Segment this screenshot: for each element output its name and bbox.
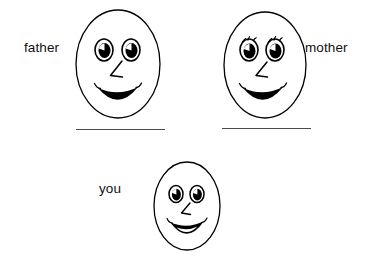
smiley-face-icon: [152, 160, 222, 252]
answer-line-father: [76, 129, 165, 130]
left-eye: [169, 185, 183, 202]
left-eye: [95, 39, 113, 61]
label-father: father: [24, 40, 59, 55]
mother-face: [222, 10, 308, 120]
face-outline: [76, 10, 160, 118]
you-face: [152, 160, 222, 252]
worksheet-canvas: father: [0, 0, 376, 272]
smiley-face-icon: [222, 10, 308, 120]
answer-line-mother: [222, 128, 311, 129]
smiley-face-icon: [74, 8, 162, 120]
label-mother: mother: [305, 40, 348, 55]
label-you: you: [99, 181, 121, 196]
right-eye: [190, 185, 204, 202]
father-face: [74, 8, 162, 120]
right-eye: [122, 39, 140, 61]
